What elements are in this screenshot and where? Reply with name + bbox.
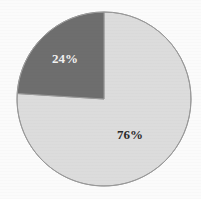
pie-chart-canvas: 24% 76% xyxy=(0,0,201,199)
pie-label-24: 24% xyxy=(52,51,78,66)
pie-chart-figure: 24% 76% xyxy=(0,0,201,199)
pie-label-76: 76% xyxy=(117,127,143,142)
